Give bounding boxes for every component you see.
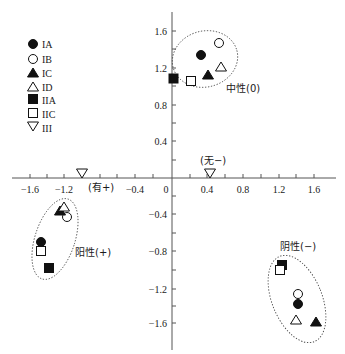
legend-label-IIC: IIC	[42, 109, 56, 120]
point-IA	[197, 51, 206, 60]
y-tick-label: 0.4	[155, 136, 168, 147]
legend-label-IC: IC	[42, 68, 52, 79]
legend-labels: IA IB IC ID IIA IIC III	[42, 39, 57, 134]
x-tick-label: 1.6	[308, 184, 321, 195]
point-IA	[37, 238, 46, 247]
point-IIA	[169, 74, 178, 83]
y-tick-label: −1.2	[149, 284, 167, 295]
x-tick-label: −1.2	[55, 184, 73, 195]
negative-group-ellipse	[257, 247, 338, 351]
negative-cluster-points	[276, 261, 322, 327]
legend-marker-IC-icon	[28, 68, 39, 77]
axes: −1.6 −1.2 −0.4 0 0.4 0.8 1.2 1.6 1.6 1.2…	[12, 12, 336, 350]
iii-points	[77, 169, 216, 178]
x-tick-labels: −1.6 −1.2 −0.4 0 0.4 0.8 1.2 1.6	[21, 184, 320, 195]
x-tick-label: −1.6	[21, 184, 39, 195]
legend-label-ID: ID	[42, 82, 53, 93]
none-minus-label: (无−)	[200, 155, 226, 166]
point-IC	[203, 70, 214, 79]
point-IC	[311, 317, 322, 326]
legend	[28, 40, 39, 132]
y-tick-label: −0.8	[149, 246, 167, 257]
x-tick-label: 0.8	[237, 184, 250, 195]
x-tick-label: 0.4	[201, 184, 214, 195]
negative-label: 阴性(−)	[280, 240, 316, 252]
y-tick-label: 1.6	[155, 26, 168, 37]
legend-marker-IB-icon	[29, 55, 38, 64]
point-ID	[291, 315, 302, 324]
point-IIA	[45, 264, 54, 273]
legend-marker-III-icon	[28, 122, 39, 131]
legend-label-IB: IB	[42, 54, 52, 65]
legend-label-IA: IA	[42, 39, 53, 50]
legend-label-IIA: IIA	[42, 95, 57, 106]
x-tick-label: 0	[164, 184, 169, 195]
y-tick-label: −0.4	[149, 209, 167, 220]
positive-label: 阳性(+)	[75, 246, 111, 258]
point-IA	[294, 300, 303, 309]
legend-marker-ID-icon	[28, 82, 39, 91]
legend-marker-IIC-icon	[29, 109, 38, 118]
point-III-has-plus	[77, 169, 88, 178]
has-plus-label: (有+)	[88, 181, 114, 193]
neutral-label: 中性(0)	[226, 82, 260, 94]
scatter-chart: −1.6 −1.2 −0.4 0 0.4 0.8 1.2 1.6 1.6 1.2…	[0, 0, 345, 354]
positive-group-ellipse	[23, 193, 87, 285]
point-IIC	[37, 247, 46, 256]
y-tick-label: −1.6	[149, 318, 167, 329]
point-ID	[216, 62, 227, 71]
point-III-none-minus	[205, 169, 216, 178]
legend-marker-IIA-icon	[29, 95, 38, 104]
point-IB	[215, 39, 224, 48]
neutral-cluster-points	[169, 39, 227, 86]
x-tick-label: 1.2	[273, 184, 286, 195]
point-IB	[294, 290, 303, 299]
x-tick-label: −0.4	[126, 184, 144, 195]
legend-marker-IA-icon	[29, 40, 38, 49]
point-IIC	[187, 77, 196, 86]
y-tick-label: 0.8	[155, 100, 168, 111]
legend-label-III: III	[42, 123, 52, 134]
point-IIC	[276, 266, 285, 275]
y-tick-label: 1.2	[155, 63, 168, 74]
